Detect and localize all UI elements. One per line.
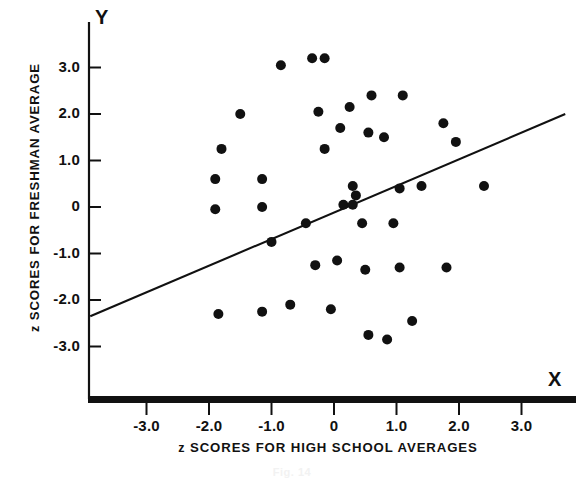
y-axis-tick-label: -2.0	[28, 290, 80, 307]
y-axis-tick-label: 1.0	[28, 151, 80, 168]
y-axis-ticks	[89, 68, 101, 347]
x-axis-tick-label: 2.0	[429, 417, 489, 434]
figure-caption: Fig. 14	[0, 466, 584, 478]
y-axis-title-prefix: z	[28, 325, 42, 332]
x-axis-title-text: SCORES FOR HIGH SCHOOL AVERAGES	[190, 440, 478, 455]
data-point	[320, 53, 330, 63]
data-points	[210, 53, 489, 344]
data-point	[335, 123, 345, 133]
data-point	[326, 304, 336, 314]
x-axis-ticks	[147, 403, 522, 415]
data-point	[210, 174, 220, 184]
data-point	[382, 335, 392, 345]
y-axis-tick-label: 0	[28, 197, 80, 214]
data-point	[310, 260, 320, 270]
data-point	[257, 307, 267, 317]
plot-canvas	[0, 0, 584, 486]
x-axis-tick-label: 1.0	[367, 417, 427, 434]
regression-line-path	[90, 114, 565, 316]
data-point	[442, 262, 452, 272]
x-axis-tick-label: 0	[304, 417, 364, 434]
x-axis-line	[88, 396, 576, 403]
regression-line	[90, 114, 565, 316]
data-point	[395, 183, 405, 193]
data-point	[345, 102, 355, 112]
y-axis-title-text: SCORES FOR FRESHMAN AVERAGE	[27, 63, 42, 320]
data-point	[379, 132, 389, 142]
x-axis-letter: X	[548, 368, 561, 391]
data-point	[363, 128, 373, 138]
data-point	[417, 181, 427, 191]
x-axis-tick-label: -2.0	[179, 417, 239, 434]
data-point	[285, 300, 295, 310]
data-point	[313, 107, 323, 117]
data-point	[363, 330, 373, 340]
x-axis-tick-label: 3.0	[492, 417, 552, 434]
data-point	[367, 90, 377, 100]
data-point	[267, 237, 277, 247]
data-point	[357, 218, 367, 228]
x-axis-title: z SCORES FOR HIGH SCHOOL AVERAGES	[88, 440, 568, 455]
data-point	[320, 144, 330, 154]
data-point	[451, 137, 461, 147]
data-point	[388, 218, 398, 228]
scatter-plot-figure: z SCORES FOR FRESHMAN AVERAGE z SCORES F…	[0, 0, 584, 486]
y-axis-tick-label: -1.0	[28, 244, 80, 261]
data-point	[407, 316, 417, 326]
data-point	[395, 262, 405, 272]
data-point	[438, 118, 448, 128]
x-axis-tick-label: -1.0	[242, 417, 302, 434]
data-point	[213, 309, 223, 319]
data-point	[348, 200, 358, 210]
y-axis-tick-label: 2.0	[28, 104, 80, 121]
data-point	[235, 109, 245, 119]
data-point	[276, 60, 286, 70]
y-axis-tick-label: 3.0	[28, 58, 80, 75]
data-point	[360, 265, 370, 275]
data-point	[351, 190, 361, 200]
data-point	[217, 144, 227, 154]
data-point	[307, 53, 317, 63]
data-point	[301, 218, 311, 228]
y-axis-tick-label: -3.0	[28, 337, 80, 354]
y-axis-letter: Y	[95, 6, 108, 29]
x-axis-title-prefix: z	[178, 441, 185, 455]
data-point	[479, 181, 489, 191]
x-axis-tick-label: -3.0	[117, 417, 177, 434]
data-point	[348, 181, 358, 191]
data-point	[210, 204, 220, 214]
data-point	[257, 174, 267, 184]
data-point	[332, 255, 342, 265]
data-point	[257, 202, 267, 212]
data-point	[398, 90, 408, 100]
data-point	[338, 200, 348, 210]
